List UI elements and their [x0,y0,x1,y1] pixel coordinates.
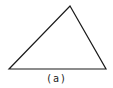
figure-caption: (a) [0,73,113,84]
triangle-shape [9,6,106,69]
